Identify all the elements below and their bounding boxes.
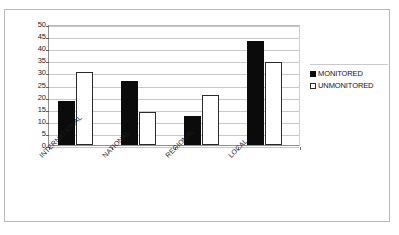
y-axis-tick-mark bbox=[46, 87, 49, 88]
y-axis-tick-mark bbox=[46, 38, 49, 39]
y-axis-tick-mark bbox=[46, 135, 49, 136]
filled-square-icon bbox=[310, 71, 316, 77]
y-axis-tick-label: 25 bbox=[28, 82, 46, 90]
y-axis-tick-label: 30 bbox=[28, 69, 46, 77]
y-axis-tick-label: 5 bbox=[28, 130, 46, 138]
y-axis-tick-label: 50 bbox=[28, 21, 46, 29]
y-axis-tick-label: 20 bbox=[28, 94, 46, 102]
bar-local-monitored bbox=[247, 41, 264, 145]
bar-regional-unmonitored bbox=[202, 95, 219, 145]
y-axis-tick-mark bbox=[46, 123, 49, 124]
legend-label-monitored: MONITORED bbox=[318, 69, 363, 78]
y-axis-tick-label: 45 bbox=[28, 33, 46, 41]
chart-screenshot: 05101520253035404550 INTERNATIONALNATION… bbox=[0, 0, 399, 235]
gridline bbox=[49, 38, 299, 39]
chart-legend: MONITORED UNMONITORED bbox=[310, 64, 388, 93]
y-axis-tick-label: 40 bbox=[28, 45, 46, 53]
chart-title-remnant bbox=[150, 0, 350, 6]
x-axis-tick-mark bbox=[300, 147, 301, 150]
y-axis-tick-label: 35 bbox=[28, 57, 46, 65]
legend-label-unmonitored: UNMONITORED bbox=[318, 81, 373, 90]
y-axis-tick-labels: 05101520253035404550 bbox=[26, 25, 46, 146]
y-axis-tick-mark bbox=[46, 74, 49, 75]
legend-item-monitored: MONITORED bbox=[310, 69, 388, 78]
hollow-square-icon bbox=[310, 83, 316, 89]
y-axis-tick-mark bbox=[46, 111, 49, 112]
y-axis-tick-mark bbox=[46, 99, 49, 100]
y-axis-tick-label: 10 bbox=[28, 118, 46, 126]
y-axis-tick-mark bbox=[46, 26, 49, 27]
y-axis-tick-label: 15 bbox=[28, 106, 46, 114]
y-axis-tick-mark bbox=[46, 62, 49, 63]
y-axis-tick-mark bbox=[46, 50, 49, 51]
gridline bbox=[49, 26, 299, 27]
bar-local-unmonitored bbox=[265, 62, 282, 145]
bar-international-unmonitored bbox=[76, 72, 93, 145]
legend-item-unmonitored: UNMONITORED bbox=[310, 81, 388, 90]
bar-national-unmonitored bbox=[139, 112, 156, 145]
plot-area bbox=[48, 25, 300, 146]
